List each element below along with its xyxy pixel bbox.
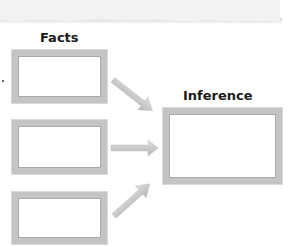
arrows-layer bbox=[0, 0, 289, 246]
arrow-down-right-icon bbox=[108, 74, 157, 117]
arrow-up-right-icon bbox=[109, 178, 155, 222]
arrow-right-icon bbox=[111, 140, 158, 156]
